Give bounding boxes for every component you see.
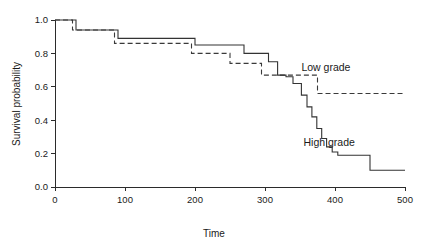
y-tick-label: 0.4 xyxy=(35,115,48,126)
x-tick-label: 0 xyxy=(52,194,57,205)
series-label-high-grade: High grade xyxy=(304,136,356,148)
x-axis-title: Time xyxy=(203,228,225,239)
x-tick-label: 300 xyxy=(257,194,273,205)
x-tick-label: 400 xyxy=(327,194,343,205)
y-tick-label: 1.0 xyxy=(35,14,48,25)
x-tick-label: 100 xyxy=(117,194,133,205)
plot-canvas: 0.00.20.40.60.81.0 0100200300400500 Low … xyxy=(0,0,427,247)
series-label-low-grade: Low grade xyxy=(301,61,350,73)
x-axis: 0100200300400500 xyxy=(52,187,413,205)
x-tick-label: 500 xyxy=(397,194,413,205)
y-tick-label: 0.0 xyxy=(35,181,48,192)
survival-plot-figure: 0.00.20.40.60.81.0 0100200300400500 Low … xyxy=(0,0,427,247)
y-tick-label: 0.8 xyxy=(35,48,48,59)
y-axis-title: Survival probability xyxy=(11,62,22,146)
y-axis: 0.00.20.40.60.81.0 xyxy=(35,14,55,192)
series-path-low-grade xyxy=(55,20,405,93)
series-annotations: Low gradeHigh grade xyxy=(301,61,355,148)
y-tick-label: 0.6 xyxy=(35,81,48,92)
y-tick-label: 0.2 xyxy=(35,148,48,159)
x-tick-label: 200 xyxy=(187,194,203,205)
